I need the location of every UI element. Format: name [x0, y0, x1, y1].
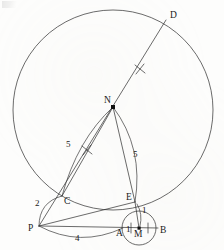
point-label-N: N	[104, 95, 111, 105]
tick-mark-ND	[135, 64, 145, 74]
length-label-AM: 1	[126, 224, 131, 234]
segment-N-to-E	[113, 107, 135, 202]
segment-P-to-D	[39, 20, 166, 226]
point-label-C: C	[64, 196, 70, 206]
point-label-P: P	[28, 223, 33, 233]
measure-arc-PA	[39, 226, 123, 238]
large-circle	[13, 10, 213, 210]
vertex-dot-N	[111, 105, 115, 109]
segment-N-to-C	[62, 107, 113, 196]
length-label-PA: 4	[75, 233, 80, 243]
measure-arc-PC	[39, 196, 62, 226]
point-label-D: D	[170, 10, 177, 20]
point-label-M: M	[134, 229, 143, 239]
geometry-figure: D N C E P A M B 5 5 2 4 1 1	[0, 0, 224, 250]
length-label-NE: 5	[133, 149, 138, 159]
figure-canvas: D N C E P A M B 5 5 2 4 1 1	[0, 0, 224, 250]
length-label-PC: 2	[35, 198, 40, 208]
length-label-EM: 1	[142, 205, 147, 215]
length-label-NC: 5	[66, 139, 71, 149]
point-label-B: B	[160, 225, 166, 235]
point-label-A: A	[116, 228, 123, 238]
segment-P-to-E	[39, 202, 135, 226]
point-label-E: E	[126, 192, 132, 202]
